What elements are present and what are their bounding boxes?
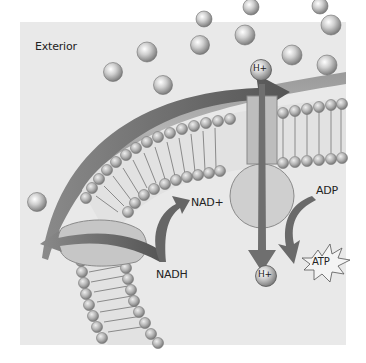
nad-plus-label: NAD+ (191, 196, 224, 209)
atp-label: ATP (312, 256, 330, 267)
nadh-label: NADH (156, 268, 188, 281)
h-plus-top-label: H+ (253, 63, 267, 73)
h-plus-bottom-label: H+ (258, 269, 272, 279)
diagram-canvas (0, 0, 366, 363)
adp-label: ADP (316, 184, 338, 197)
exterior-label: Exterior (35, 40, 77, 53)
membrane-diagram: Exterior H+ NAD+ NADH ADP ATP H+ (0, 0, 366, 363)
